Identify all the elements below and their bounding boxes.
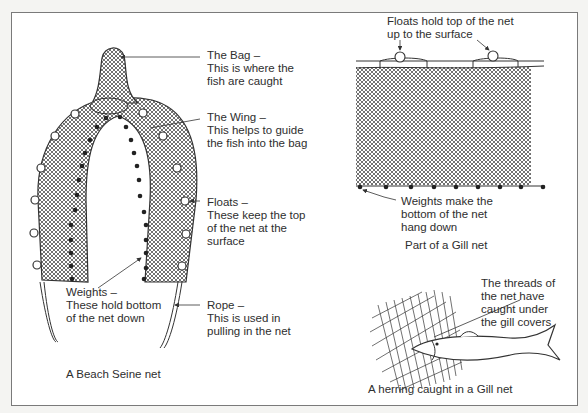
herring-note: The threads of the net have caught under…	[481, 277, 555, 329]
wing-label: The Wing – This helps to guide the fish …	[207, 111, 307, 150]
floats-label: Floats – These keep the top of the net a…	[207, 196, 305, 248]
bag-label: The Bag – This is where the fish are cau…	[207, 49, 294, 88]
beach-seine-caption: A Beach Seine net	[66, 368, 161, 381]
gill-net-mesh	[356, 67, 531, 185]
seine-bag	[92, 48, 138, 103]
gill-floats-label: Floats hold top of the net up to the sur…	[387, 15, 514, 41]
rope-label: Rope – This is used in pulling in the ne…	[207, 299, 291, 338]
weights-label: Weights – These hold bottom of the net d…	[66, 286, 161, 325]
gill-net-caption: Part of a Gill net	[405, 239, 487, 252]
herring-caption: A herring caught in a Gill net	[368, 383, 512, 396]
seine-wing	[38, 98, 197, 282]
gill-weights-label: Weights make the bottom of the net hang …	[401, 195, 493, 234]
seine-rope-right	[160, 282, 182, 348]
seine-rope-left	[40, 282, 58, 342]
gill-net	[356, 40, 545, 200]
